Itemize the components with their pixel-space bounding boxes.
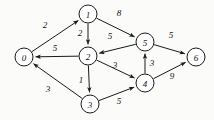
- edge-weight-0-1: 2: [43, 20, 48, 30]
- node-5[interactable]: 5: [136, 33, 154, 51]
- edge-2-to-3: [88, 65, 89, 92]
- edge-weight-3-0: 3: [45, 84, 51, 94]
- edge-weight-3-4: 5: [117, 96, 122, 106]
- node-label-4: 4: [143, 79, 148, 89]
- edge-2-to-0: [36, 56, 79, 57]
- graph-canvas: 228513353955 0123456: [0, 0, 214, 120]
- edge-weight-5-2: 5: [108, 31, 113, 41]
- edge-5-to-2: [99, 44, 136, 53]
- edge-weights-layer: 228513353955: [43, 8, 175, 106]
- node-label-5: 5: [143, 38, 148, 48]
- edge-5-to-6: [154, 45, 185, 54]
- edge-weight-4-5: 3: [149, 58, 155, 68]
- node-label-3: 3: [87, 100, 93, 110]
- edge-weight-5-6: 5: [169, 30, 174, 40]
- node-1[interactable]: 1: [79, 5, 97, 23]
- node-label-0: 0: [22, 53, 27, 63]
- node-label-2: 2: [86, 52, 91, 62]
- edge-weight-2-0: 5: [53, 43, 58, 53]
- edge-1-to-5: [97, 18, 135, 37]
- node-4[interactable]: 4: [136, 74, 154, 92]
- node-6[interactable]: 6: [187, 48, 205, 66]
- edge-weight-2-3: 1: [79, 75, 84, 85]
- graph-figure: 228513353955 0123456: [0, 0, 214, 120]
- node-label-1: 1: [86, 10, 91, 20]
- node-2[interactable]: 2: [79, 47, 97, 65]
- node-label-6: 6: [194, 53, 199, 63]
- node-3[interactable]: 3: [81, 95, 99, 113]
- edge-weight-1-5: 8: [117, 8, 122, 18]
- edge-weight-4-6: 9: [170, 71, 175, 81]
- node-0[interactable]: 0: [15, 48, 33, 66]
- edge-3-to-0: [33, 64, 82, 99]
- edge-weight-2-4: 3: [112, 60, 118, 70]
- edge-weight-1-2: 2: [78, 28, 83, 38]
